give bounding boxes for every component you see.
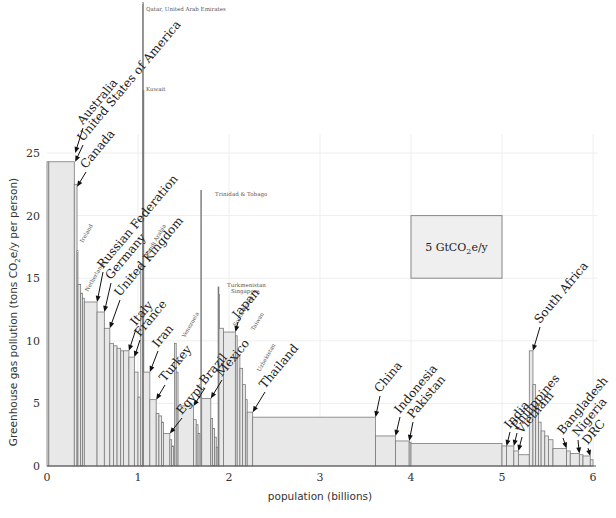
small-country-label: Trinidad & Tobago [215, 191, 268, 198]
y-tick-labels: 0510152025 [26, 147, 40, 473]
bar [507, 446, 514, 466]
x-tick: 0 [44, 471, 51, 484]
arrowhead-icon [128, 344, 133, 350]
bar [121, 351, 124, 466]
bar [590, 460, 593, 466]
bar [143, 372, 149, 466]
bar [247, 412, 252, 466]
arrowhead-icon [234, 326, 239, 332]
bar [411, 443, 502, 466]
bar [194, 420, 197, 466]
country-label: South Africa [531, 259, 591, 351]
arrowhead-icon [211, 392, 216, 398]
bar [237, 356, 240, 466]
arrowhead-icon [586, 450, 591, 456]
y-tick: 5 [33, 397, 40, 410]
arrowhead-icon [562, 442, 567, 448]
arrowhead-icon [394, 430, 399, 436]
arrowhead-icon [109, 322, 114, 328]
small-country-label: Qatar, United Arab Emirates [146, 6, 226, 12]
bar [538, 422, 541, 466]
arrowhead-icon [513, 440, 518, 446]
y-tick: 0 [33, 460, 40, 473]
arrowhead-icon [150, 366, 155, 372]
arrowhead-icon [77, 180, 82, 186]
arrowhead-icon [517, 445, 522, 451]
bar [541, 431, 545, 466]
bar [198, 433, 200, 466]
bar [49, 162, 74, 466]
chart-canvas: 5 GtCO2e/y 0123456 0510152025 population… [0, 0, 616, 518]
bar [117, 348, 121, 466]
bar [172, 446, 174, 466]
bar [78, 284, 81, 466]
y-tick: 10 [26, 335, 40, 348]
bar [567, 451, 571, 466]
small-country-label: Taiwan [250, 311, 265, 332]
bar [123, 351, 128, 466]
bar [518, 455, 529, 466]
bar [553, 448, 567, 466]
bar [156, 413, 159, 466]
bar [545, 436, 549, 466]
small-country-label: Venezuela [180, 310, 200, 339]
bar [219, 328, 224, 466]
arrowhead-icon [96, 296, 101, 302]
bar [110, 343, 114, 466]
y-tick: 15 [26, 272, 40, 285]
y-tick: 25 [26, 147, 40, 160]
arrowhead-icon [506, 440, 511, 446]
x-tick-labels: 0123456 [44, 471, 597, 484]
bar [583, 456, 590, 466]
bar [202, 398, 211, 466]
bar [579, 455, 583, 466]
bar [376, 436, 396, 466]
bar [74, 184, 77, 466]
arrowhead-icon [103, 306, 108, 312]
bar [150, 400, 156, 466]
y-tick: 20 [26, 210, 40, 223]
x-tick: 1 [135, 471, 142, 484]
arrowhead-icon [75, 147, 80, 153]
bar [113, 346, 117, 466]
bar [129, 357, 134, 466]
arrowhead-icon [156, 393, 161, 399]
bar [240, 368, 243, 466]
bar [570, 453, 579, 466]
x-tick: 4 [408, 471, 415, 484]
country-label: United States of America [74, 18, 183, 162]
arrowhead-icon [532, 344, 537, 350]
bar [134, 372, 138, 466]
x-tick: 6 [590, 471, 597, 484]
bar [548, 440, 553, 466]
small-country-labels: Qatar, United Arab EmiratesKuwaitTrinida… [79, 6, 277, 373]
x-tick: 5 [499, 471, 506, 484]
bar [502, 446, 507, 466]
arrowhead-icon [576, 447, 581, 453]
bar [163, 433, 169, 466]
arrow-line [110, 300, 120, 326]
bar [253, 417, 376, 466]
bar [396, 441, 410, 466]
country-label-text: Iran [149, 321, 176, 350]
country-label-text: South Africa [531, 259, 591, 326]
legend-label: 5 GtCO2e/y [425, 241, 488, 256]
arrowhead-icon [374, 411, 379, 417]
country-label-text: United States of America [74, 18, 183, 144]
arrowhead-icon [408, 435, 413, 441]
small-country-label: Kuwait [146, 86, 166, 92]
legend-box: 5 GtCO2e/y [411, 216, 502, 279]
bar [104, 328, 109, 466]
arrowhead-icon [253, 406, 258, 412]
bar [84, 302, 97, 466]
country-label-text: China [371, 359, 405, 395]
small-country-label: Ireland [79, 223, 95, 244]
arrow-line [105, 283, 111, 310]
x-axis-label: population (billions) [268, 490, 372, 502]
bar [97, 312, 104, 466]
bar [159, 416, 162, 466]
x-tick: 2 [226, 471, 233, 484]
y-axis-label: Greenhouse gas pollution (tons CO2e/y pe… [7, 178, 22, 446]
bar [243, 385, 246, 466]
bar [514, 451, 519, 466]
